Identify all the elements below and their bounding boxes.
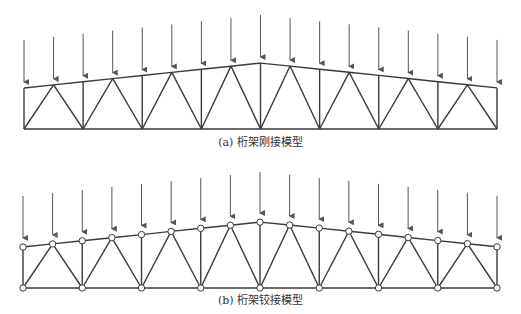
diagonal-member — [171, 231, 201, 288]
diagonal-member — [290, 66, 320, 129]
diagonal-member — [408, 237, 438, 288]
diagonal-member — [438, 85, 468, 129]
truss-members — [24, 63, 497, 129]
diagonal-member — [467, 85, 497, 129]
diagonal-member — [319, 231, 349, 288]
pin-joint-icon — [49, 241, 55, 247]
pin-joint-icon — [227, 222, 233, 228]
truss-diagram — [0, 0, 521, 314]
diagonal-member — [113, 79, 143, 129]
diagonal-member — [379, 79, 409, 129]
diagonal-member — [379, 237, 409, 288]
diagonal-member — [201, 225, 231, 288]
diagonal-member — [231, 66, 261, 129]
diagonal-member — [172, 72, 202, 129]
pin-joint-icon — [316, 225, 322, 231]
rigid-truss-model — [24, 15, 497, 129]
diagonal-member — [53, 244, 83, 288]
diagonal-member — [54, 85, 84, 129]
diagonal-member — [438, 244, 468, 288]
diagonal-member — [83, 79, 113, 129]
pin-joint-icon — [286, 222, 292, 228]
pin-joint-icon — [138, 231, 144, 237]
pin-joint-icon — [79, 238, 85, 244]
diagonal-member — [349, 231, 379, 288]
diagonal-member — [201, 66, 231, 129]
pin-joint-icon — [375, 231, 381, 237]
caption-rigid-model: (a) 桁架刚接模型 — [0, 133, 521, 149]
pin-joint-icon — [257, 219, 263, 225]
truss-members — [23, 222, 497, 288]
diagonal-member — [112, 238, 142, 288]
pin-joint-icon — [405, 234, 411, 240]
pin-joint-icon — [464, 240, 470, 246]
diagonal-member — [230, 225, 260, 288]
pin-joint-icon — [198, 225, 204, 231]
pin-joint-icon — [435, 237, 441, 243]
diagonal-member — [320, 72, 350, 129]
pin-joint-icon — [494, 244, 500, 250]
diagonal-member — [467, 244, 497, 288]
diagonal-member — [261, 66, 291, 129]
pinned-truss-model — [20, 172, 500, 291]
diagonal-member — [82, 238, 112, 288]
diagonal-member — [349, 72, 379, 129]
diagonal-member — [290, 225, 320, 288]
diagonal-member — [24, 85, 54, 129]
pin-joint-icon — [346, 228, 352, 234]
diagonal-member — [260, 225, 290, 288]
caption-pinned-model: (b) 桁架铰接模型 — [0, 291, 521, 307]
diagonal-member — [408, 79, 438, 129]
pin-joint-icon — [20, 244, 26, 250]
diagonal-member — [142, 231, 172, 288]
pin-joint-icon — [109, 234, 115, 240]
diagonal-member — [23, 244, 53, 288]
pin-joint-icon — [168, 228, 174, 234]
diagonal-member — [142, 72, 172, 129]
